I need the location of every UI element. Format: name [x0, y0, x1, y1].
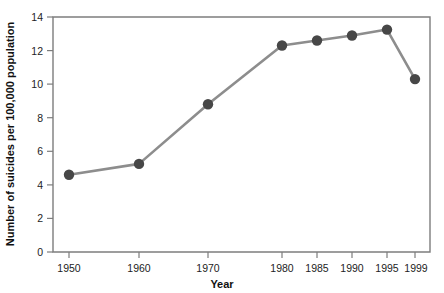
data-point-1995 — [382, 24, 392, 34]
data-point-1960 — [134, 159, 144, 169]
x-tick-label-1970: 1970 — [196, 262, 220, 274]
line-chart: 0 2 4 6 8 10 12 14 1950 1960 1970 — [0, 0, 444, 293]
data-point-1999 — [410, 74, 420, 84]
y-tick-label-0: 0 — [37, 246, 43, 258]
x-tick-label-1980: 1980 — [270, 262, 294, 274]
data-point-1980 — [277, 40, 287, 50]
y-tick-label-8: 8 — [37, 112, 43, 124]
y-tick-label-10: 10 — [31, 78, 43, 90]
y-tick-label-6: 6 — [37, 145, 43, 157]
data-point-1990 — [347, 30, 357, 40]
y-tick-label-2: 2 — [37, 212, 43, 224]
x-tick-label-1950: 1950 — [57, 262, 81, 274]
data-point-1970 — [203, 99, 213, 109]
x-tick-label-1995: 1995 — [375, 262, 399, 274]
chart-background — [0, 0, 444, 293]
data-point-1950 — [64, 170, 74, 180]
y-tick-label-12: 12 — [31, 45, 43, 57]
chart-container: 0 2 4 6 8 10 12 14 1950 1960 1970 — [0, 0, 444, 293]
x-tick-label-1985: 1985 — [305, 262, 329, 274]
x-axis-title: Year — [210, 278, 234, 290]
y-axis-title: Number of suicides per 100,000 populatio… — [4, 22, 16, 247]
x-tick-label-1990: 1990 — [340, 262, 364, 274]
y-tick-label-4: 4 — [37, 179, 43, 191]
data-point-1985 — [312, 35, 322, 45]
x-tick-label-1999: 1999 — [404, 262, 428, 274]
x-tick-label-1960: 1960 — [127, 262, 151, 274]
y-tick-label-14: 14 — [31, 11, 43, 23]
